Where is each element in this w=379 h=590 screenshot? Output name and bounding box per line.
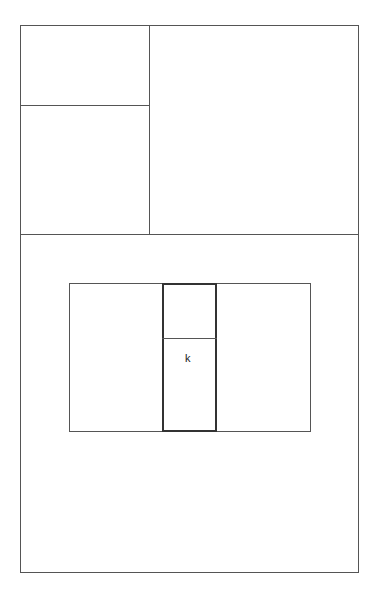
section-horizontal-divider xyxy=(20,234,359,235)
top-left-horizontal-divider xyxy=(20,105,149,106)
highlighted-column-divider xyxy=(162,338,217,339)
cell-label: k xyxy=(185,351,191,365)
top-section-vertical-divider xyxy=(149,25,150,235)
